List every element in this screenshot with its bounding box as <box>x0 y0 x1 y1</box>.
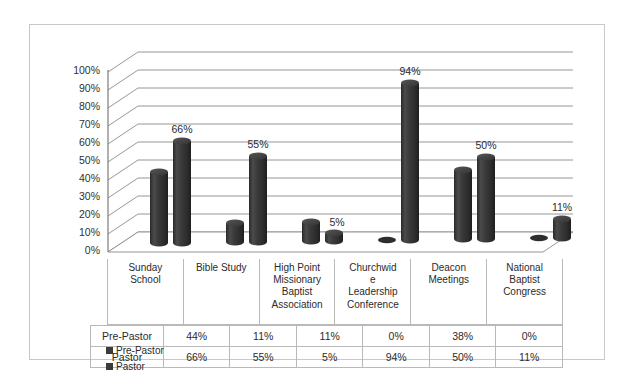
bar-pre-pastor-sunday-school <box>150 169 168 247</box>
table-cell-pastor-hpmba: 5% <box>296 347 363 368</box>
data-label-pastor-deacon-meetings: 50% <box>466 140 506 151</box>
bar-pastor-bible-study <box>249 153 267 246</box>
y-axis-tick-80: 80% <box>54 101 100 112</box>
bar-pre-pastor-deacon-meetings <box>454 167 472 243</box>
table-cell-pastor-sunday-school: 66% <box>163 347 230 368</box>
bar-group-deacon-meetings <box>454 154 495 243</box>
data-table: Pre-Pastor 44% 11% 11% 0% 38% 0% Pastor … <box>90 325 563 368</box>
category-label-deacon-meetings: DeaconMeetings <box>410 259 486 325</box>
bar-pre-pastor-bible-study <box>226 220 244 246</box>
category-label-hpmba: High PointMissionaryBaptistAssociation <box>259 259 335 325</box>
y-axis-tick-40: 40% <box>54 173 100 184</box>
bar-pre-pastor-churchwide <box>378 237 396 243</box>
bar-pastor-national-baptist-congress <box>553 216 571 242</box>
bar-group-bible-study <box>226 153 267 246</box>
bar-pastor-hpmba <box>325 230 343 245</box>
bar-pre-pastor-national-baptist-congress <box>530 235 548 241</box>
bar-group-sunday-school <box>150 138 191 247</box>
chart-frame: 100% 90% 80% 70% 60% 50% 40% 30% 20% 10%… <box>29 24 605 360</box>
table-cell-pastor-bible-study: 55% <box>230 347 297 368</box>
category-label-national-congress: NationalBaptistCongress <box>486 259 563 325</box>
table-row-header-pre-pastor: Pre-Pastor <box>91 326 164 347</box>
table-cell-pre-pastor-deacon-meetings: 38% <box>429 326 496 347</box>
y-axis-tick-100: 100% <box>54 65 100 76</box>
bar-pastor-sunday-school <box>173 138 191 247</box>
table-cell-pre-pastor-bible-study: 11% <box>230 326 297 347</box>
table-row-header-pastor: Pastor <box>91 347 164 368</box>
table-cell-pre-pastor-hpmba: 11% <box>296 326 363 347</box>
bar-pastor-deacon-meetings <box>477 154 495 243</box>
table-cell-pastor-churchwide: 94% <box>363 347 430 368</box>
y-axis-tick-90: 90% <box>54 83 100 94</box>
y-axis-tick-30: 30% <box>54 191 100 202</box>
table-row: Pre-Pastor 44% 11% 11% 0% 38% 0% <box>91 326 563 347</box>
bar-group-churchwide <box>378 80 419 244</box>
data-label-pastor-bible-study: 55% <box>238 139 278 150</box>
table-row: Pastor 66% 55% 5% 94% 50% 11% <box>91 347 563 368</box>
y-axis-tick-10: 10% <box>54 227 100 238</box>
plot-area: 100% 90% 80% 70% 60% 50% 40% 30% 20% 10%… <box>30 25 606 259</box>
table-cell-pre-pastor-sunday-school: 44% <box>163 326 230 347</box>
y-axis-tick-20: 20% <box>54 209 100 220</box>
data-label-pastor-sunday-school: 66% <box>162 124 202 135</box>
chart-depth-lines <box>108 52 138 252</box>
data-label-pastor-churchwide: 94% <box>390 66 430 77</box>
y-axis-tick-0: 0% <box>54 245 100 256</box>
category-label-sunday-school: SundaySchool <box>107 259 183 325</box>
table-cell-pre-pastor-national-congress: 0% <box>496 326 563 347</box>
table-cell-pre-pastor-churchwide: 0% <box>363 326 430 347</box>
table-cell-pastor-national-congress: 11% <box>496 347 563 368</box>
data-label-pastor-hpmba: 5% <box>317 217 357 228</box>
category-label-strip: SundaySchool Bible Study High PointMissi… <box>107 259 563 325</box>
data-label-pastor-national-baptist-congress: 11% <box>542 202 582 213</box>
y-axis-tick-60: 60% <box>54 137 100 148</box>
bar-pastor-churchwide <box>401 80 419 244</box>
y-axis-tick-50: 50% <box>54 155 100 166</box>
table-cell-pastor-deacon-meetings: 50% <box>429 347 496 368</box>
chart-gridlines <box>138 52 573 232</box>
category-label-bible-study: Bible Study <box>183 259 259 325</box>
y-axis-tick-70: 70% <box>54 119 100 130</box>
category-label-churchwide: ChurchwideLeadershipConference <box>334 259 410 325</box>
